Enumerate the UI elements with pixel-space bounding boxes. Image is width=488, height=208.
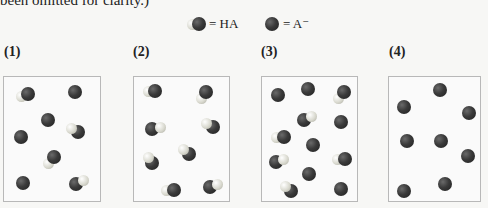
- legend-a-minus-label: = A⁻: [283, 16, 309, 32]
- preceding-text-line: been omitted for clarity.): [0, 0, 149, 9]
- panel-4-label: (4): [389, 44, 405, 60]
- panel-1-label: (1): [4, 44, 20, 60]
- legend-ha-label: = HA: [209, 16, 238, 32]
- legend-a-minus: = A⁻: [264, 14, 309, 34]
- panel-2-label: (2): [133, 44, 149, 60]
- legend-ha: = HA: [184, 14, 238, 34]
- ha-molecule-icon: [184, 16, 206, 32]
- panel-3-label: (3): [261, 44, 277, 60]
- a-minus-ion-icon: [264, 16, 280, 32]
